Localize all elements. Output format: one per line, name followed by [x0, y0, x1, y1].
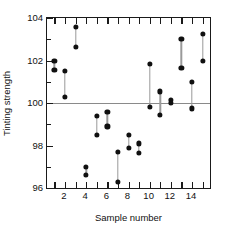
x-axis-tick-top	[97, 18, 98, 24]
x-axis-tick	[54, 182, 55, 188]
x-axis-tick-top	[171, 18, 172, 24]
x-axis-tick	[76, 182, 77, 188]
y-axis-tick	[47, 146, 53, 147]
data-point	[179, 37, 184, 42]
x-axis-tick-top	[118, 18, 119, 24]
chart-figure: Tinting strength Sample number 969810010…	[0, 0, 235, 235]
data-point	[94, 132, 99, 137]
data-segment	[202, 34, 203, 61]
data-point	[147, 61, 152, 66]
y-axis-tick	[47, 18, 53, 19]
data-segment	[117, 152, 118, 182]
x-axis-tick	[171, 182, 172, 188]
data-point	[105, 124, 110, 129]
data-point	[73, 44, 78, 49]
x-axis-tick	[65, 182, 66, 188]
y-axis-minor-tick	[47, 82, 51, 83]
data-point	[136, 141, 141, 146]
x-axis-tick	[86, 182, 87, 188]
y-axis-minor-tick	[47, 124, 51, 125]
data-point	[136, 150, 141, 155]
data-point	[200, 58, 205, 63]
data-point	[189, 106, 194, 111]
x-axis-tick-top	[192, 18, 193, 24]
data-point	[84, 173, 89, 178]
data-point	[94, 113, 99, 118]
x-axis-title: Sample number	[46, 212, 211, 223]
x-axis-tick-top	[160, 18, 161, 24]
y-axis-tick-label: 96	[3, 183, 43, 193]
y-axis-tick	[47, 103, 53, 104]
x-axis-tick-top	[107, 18, 108, 24]
y-axis-minor-tick	[47, 167, 51, 168]
x-axis-tick-top	[181, 18, 182, 24]
x-axis-tick-top	[86, 18, 87, 24]
x-axis-tick	[181, 182, 182, 188]
data-point	[168, 100, 173, 105]
data-point	[126, 132, 131, 137]
x-axis-tick-top	[150, 18, 151, 24]
x-axis-tick	[192, 182, 193, 188]
reference-line	[47, 103, 210, 104]
y-axis-minor-tick	[47, 39, 51, 40]
y-axis-tick	[47, 188, 53, 189]
x-axis-tick	[107, 182, 108, 188]
x-axis-tick	[203, 182, 204, 188]
data-point	[126, 145, 131, 150]
x-axis-tick	[160, 182, 161, 188]
data-point	[147, 105, 152, 110]
y-axis-tick-label: 102	[3, 55, 43, 65]
plot-area	[46, 17, 211, 189]
x-axis-tick	[97, 182, 98, 188]
x-axis-tick-top	[65, 18, 66, 24]
y-axis-tick-label: 98	[3, 140, 43, 150]
data-point	[73, 24, 78, 29]
data-point	[52, 58, 57, 63]
data-segment	[64, 71, 65, 97]
x-axis-tick-top	[203, 18, 204, 24]
data-point	[62, 94, 67, 99]
data-point	[200, 31, 205, 36]
y-axis-tick-label: 104	[3, 13, 43, 23]
x-axis-tick	[129, 182, 130, 188]
y-axis-tick-label: 100	[3, 98, 43, 108]
data-point	[158, 89, 163, 94]
data-point	[52, 67, 57, 72]
data-segment	[191, 82, 192, 109]
x-axis-tick	[139, 182, 140, 188]
data-point	[62, 69, 67, 74]
data-point	[115, 149, 120, 154]
data-point	[189, 79, 194, 84]
data-point	[158, 112, 163, 117]
x-axis-tick-top	[129, 18, 130, 24]
data-point	[84, 164, 89, 169]
x-axis-tick-top	[54, 18, 55, 24]
x-axis-tick	[150, 182, 151, 188]
data-point	[105, 109, 110, 114]
data-segment	[149, 64, 150, 108]
x-axis-tick-top	[139, 18, 140, 24]
data-point	[179, 65, 184, 70]
plot-inner	[47, 18, 210, 188]
data-point	[115, 179, 120, 184]
data-segment	[181, 39, 182, 68]
x-axis-tick-label: 14	[179, 191, 203, 201]
